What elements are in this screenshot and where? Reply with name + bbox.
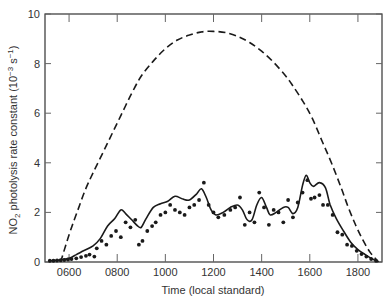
data-point	[100, 239, 104, 243]
measured-solid-line	[50, 175, 379, 261]
data-point	[340, 233, 344, 237]
data-point	[74, 256, 78, 260]
plot-frame	[45, 14, 382, 262]
data-point	[267, 223, 271, 227]
data-point	[129, 225, 133, 229]
data-point	[119, 235, 123, 239]
data-point	[79, 255, 83, 259]
data-point	[154, 220, 158, 224]
data-point	[253, 220, 257, 224]
data-point	[272, 208, 276, 212]
data-point	[360, 252, 364, 256]
data-point	[228, 208, 232, 212]
data-point	[173, 208, 177, 212]
data-point	[197, 198, 201, 202]
data-point	[374, 259, 378, 263]
data-point	[92, 255, 96, 259]
data-point	[331, 213, 335, 217]
data-point	[163, 211, 167, 215]
data-point	[305, 178, 309, 182]
data-point	[48, 259, 52, 263]
x-tick-label: 0600	[57, 266, 81, 278]
y-tick-labels: 0246810	[28, 8, 40, 268]
data-point	[248, 211, 252, 215]
data-point	[70, 257, 74, 261]
data-point	[369, 257, 373, 261]
data-point	[124, 220, 128, 224]
data-point	[243, 223, 247, 227]
y-axis-title: NO2 photolysis rate constant (10−3 s−1)	[6, 45, 22, 234]
data-point	[291, 215, 295, 219]
y-tick-label: 0	[34, 256, 40, 268]
data-point	[257, 191, 261, 195]
data-point	[192, 203, 196, 207]
data-point	[345, 243, 349, 247]
data-point	[84, 254, 88, 258]
data-point	[277, 211, 281, 215]
data-point	[262, 206, 266, 210]
data-point	[336, 230, 340, 234]
y-tick-label: 2	[34, 206, 40, 218]
data-point	[55, 259, 59, 263]
x-axis-title: Time (local standard)	[162, 284, 265, 296]
x-tick-label: 1400	[249, 266, 273, 278]
data-point	[364, 255, 368, 259]
data-point	[150, 224, 154, 228]
data-point	[296, 201, 300, 205]
clear-sky-dashed-line	[61, 31, 379, 262]
data-point	[62, 258, 66, 262]
data-point	[168, 203, 172, 207]
data-point	[137, 243, 141, 247]
data-point	[141, 239, 145, 243]
data-point	[321, 203, 325, 207]
data-point	[114, 229, 118, 233]
data-point	[59, 258, 63, 262]
axis-ticks	[45, 14, 382, 262]
x-tick-label: 1200	[201, 266, 225, 278]
chart-canvas: 0600080010001200140016001800 0246810 Tim…	[0, 0, 392, 301]
y-tick-label: 10	[28, 8, 40, 20]
data-point	[207, 203, 211, 207]
data-point	[216, 215, 220, 219]
data-point	[313, 196, 317, 200]
measured-dots	[48, 178, 378, 262]
data-point	[109, 234, 113, 238]
x-tick-labels: 0600080010001200140016001800	[57, 266, 370, 278]
data-point	[183, 213, 187, 217]
x-tick-label: 0800	[105, 266, 129, 278]
data-point	[233, 206, 237, 210]
data-point	[286, 198, 290, 202]
data-point	[350, 244, 354, 248]
data-point	[326, 203, 330, 207]
y-tick-label: 6	[34, 107, 40, 119]
data-point	[202, 181, 206, 185]
y-tick-label: 8	[34, 58, 40, 70]
data-point	[133, 218, 137, 222]
data-point	[145, 229, 149, 233]
data-point	[301, 191, 305, 195]
x-tick-label: 1600	[298, 266, 322, 278]
data-point	[188, 206, 192, 210]
data-point	[355, 249, 359, 253]
data-point	[66, 258, 70, 262]
data-point	[52, 259, 56, 263]
x-tick-label: 1800	[346, 266, 370, 278]
x-tick-label: 1000	[153, 266, 177, 278]
data-point	[281, 220, 285, 224]
data-point	[238, 196, 242, 200]
y-tick-label: 4	[34, 157, 40, 169]
data-series	[48, 31, 378, 262]
data-point	[178, 211, 182, 215]
data-point	[309, 197, 313, 201]
data-point	[104, 243, 108, 247]
data-point	[95, 246, 99, 250]
data-point	[212, 211, 216, 215]
data-point	[88, 253, 92, 257]
data-point	[222, 213, 226, 217]
data-point	[318, 193, 322, 197]
data-point	[159, 213, 163, 217]
